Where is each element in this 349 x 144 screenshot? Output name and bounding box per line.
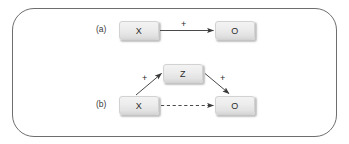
arrow-b-z-to-o <box>205 74 229 94</box>
arrow-layer <box>0 0 349 144</box>
figure-canvas: (a) X O (b) X Z O + + + <box>0 0 349 144</box>
arrow-b-x-to-z <box>136 74 162 96</box>
